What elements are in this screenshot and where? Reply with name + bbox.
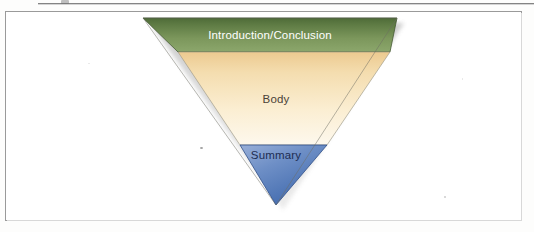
segment-label-introduction-conclusion: Introduction/Conclusion [143, 29, 397, 41]
scan-artifact-speck [444, 196, 446, 198]
scan-artifact-speck [462, 78, 463, 80]
segment-label-body: Body [176, 93, 376, 105]
scan-artifact-speck [88, 63, 90, 64]
document-page: Introduction/Conclusion Body Summary [0, 0, 534, 232]
page-header-rule-shadow [38, 4, 534, 5]
segment-label-summary: Summary [216, 149, 336, 161]
figure-frame [5, 11, 522, 221]
scan-artifact-dot [200, 147, 203, 149]
